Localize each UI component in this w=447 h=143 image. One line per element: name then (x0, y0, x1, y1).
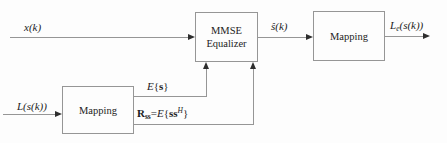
l-input-label: L(s(k)) (17, 100, 47, 112)
l-input-arrowhead-icon (55, 111, 62, 117)
mapping-top-label: Mapping (330, 30, 368, 43)
covariance-arrowhead-icon (250, 62, 256, 69)
l-input-line (3, 114, 55, 115)
le-output-line (385, 36, 423, 37)
mapping-bottom-box: Mapping (62, 86, 134, 134)
block-diagram-canvas: MMSE Equalizer Mapping Mapping x(k) ŝ(k)… (0, 0, 447, 143)
mmse-label-line2: Equalizer (206, 37, 246, 50)
covariance-label: Rss=E{ssH} (137, 105, 188, 123)
s-hat-arrowhead-icon (306, 34, 313, 40)
x-input-line (10, 37, 189, 38)
mean-line-vertical (206, 68, 207, 97)
mmse-label-line1: MMSE (211, 24, 242, 37)
mapping-bottom-label: Mapping (79, 104, 117, 117)
le-output-label: Le(s(k)) (390, 19, 423, 35)
x-input-label: x(k) (24, 21, 41, 33)
s-hat-line (258, 37, 306, 38)
mean-line-horizontal (133, 96, 207, 97)
le-output-arrowhead-icon (423, 33, 430, 39)
mmse-equalizer-box: MMSE Equalizer (195, 12, 258, 62)
covariance-line-horizontal (133, 124, 254, 125)
mean-label: E{s} (147, 80, 169, 92)
covariance-line-vertical (253, 68, 254, 125)
mapping-top-box: Mapping (313, 11, 385, 61)
x-input-arrowhead-icon (188, 34, 195, 40)
mean-arrowhead-icon (203, 62, 209, 69)
s-hat-label: ŝ(k) (271, 20, 288, 32)
